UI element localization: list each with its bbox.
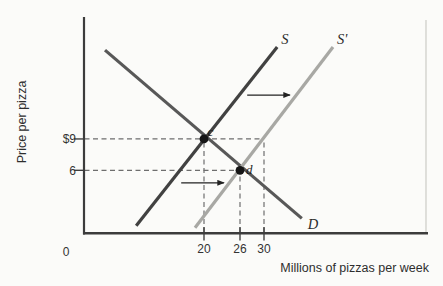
demand-curve bbox=[105, 50, 302, 218]
x-tick-label-30: 30 bbox=[257, 242, 271, 256]
equilibrium-point-d bbox=[236, 166, 245, 175]
x-tick-label-20: 20 bbox=[197, 242, 211, 256]
x-axis-title: Millions of pizzas per week bbox=[280, 261, 429, 275]
supply-shifted-curve bbox=[195, 47, 333, 228]
y-axis-title: Price per pizza bbox=[15, 81, 29, 164]
equilibrium-dots bbox=[200, 135, 245, 175]
supply-shifted-curve-label: S' bbox=[337, 31, 348, 47]
axis-ticks bbox=[74, 139, 264, 241]
demand-curve-label: D bbox=[307, 216, 319, 232]
supply-curve-label: S bbox=[281, 31, 289, 47]
dashed-guides bbox=[85, 139, 265, 233]
supply-demand-figure: D S S' c d $9 6 20 26 30 0 Millions of p… bbox=[0, 0, 443, 286]
equilibrium-c-label: c bbox=[208, 124, 214, 139]
y-tick-label-9: $9 bbox=[63, 132, 77, 146]
supply-demand-chart: D S S' c d $9 6 20 26 30 0 Millions of p… bbox=[0, 0, 443, 286]
x-tick-label-26: 26 bbox=[233, 242, 247, 256]
equilibrium-d-label: d bbox=[246, 162, 253, 177]
origin-label: 0 bbox=[63, 245, 70, 259]
y-tick-label-6: 6 bbox=[69, 164, 76, 178]
